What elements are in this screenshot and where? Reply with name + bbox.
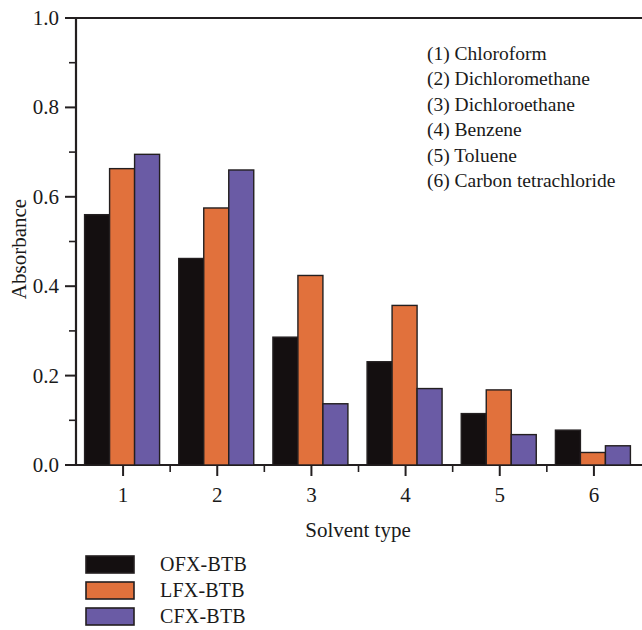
y-axis-ticks — [65, 18, 76, 465]
x-tick-label: 1 — [118, 483, 129, 507]
x-tick-label: 3 — [306, 483, 317, 507]
solvent-key-line: (1) Chloroform — [427, 43, 547, 65]
bar — [85, 215, 110, 465]
x-tick-label: 2 — [212, 483, 223, 507]
y-tick-label: 0.0 — [33, 453, 59, 477]
bar-group — [555, 430, 630, 465]
x-axis-title: Solvent type — [305, 518, 411, 542]
series-legend: OFX-BTBLFX-BTBCFX-BTB — [86, 553, 247, 627]
x-tick-label: 5 — [495, 483, 506, 507]
bar-group — [273, 275, 348, 465]
bar — [580, 452, 605, 465]
legend-label: LFX-BTB — [160, 579, 245, 601]
solvent-key-line: (3) Dichloroethane — [427, 94, 575, 116]
chart-canvas: 0.00.20.40.60.81.0 123456 Solvent type A… — [0, 0, 642, 630]
bar-group — [179, 170, 254, 465]
bar — [461, 414, 486, 465]
bar — [511, 435, 536, 465]
legend-swatch — [86, 582, 134, 599]
x-tick-label: 6 — [589, 483, 600, 507]
solvent-key-line: (6) Carbon tetrachloride — [427, 170, 615, 192]
bar — [323, 404, 348, 465]
solvent-key-line: (2) Dichloromethane — [427, 68, 590, 90]
legend-swatch — [86, 608, 134, 625]
y-tick-label: 0.4 — [33, 274, 60, 298]
bar — [417, 389, 442, 465]
bar — [110, 169, 135, 465]
y-axis-title: Absorbance — [7, 199, 31, 299]
bars-layer — [85, 154, 631, 465]
bar — [273, 337, 298, 465]
bar — [605, 446, 630, 465]
absorbance-bar-chart-figure: 0.00.20.40.60.81.0 123456 Solvent type A… — [0, 0, 642, 630]
y-tick-label: 0.8 — [33, 95, 59, 119]
y-tick-label: 0.6 — [33, 185, 59, 209]
y-axis-tick-labels: 0.00.20.40.60.81.0 — [33, 6, 60, 477]
bar — [179, 258, 204, 465]
y-tick-label: 1.0 — [33, 6, 59, 30]
bar — [204, 208, 229, 465]
bar-group — [367, 305, 442, 465]
bar — [367, 362, 392, 465]
x-axis-ticks — [123, 465, 594, 476]
solvent-key-line: (5) Toluene — [427, 145, 517, 167]
x-axis-tick-labels: 123456 — [118, 483, 599, 507]
legend-label: CFX-BTB — [160, 605, 246, 627]
bar — [229, 170, 254, 465]
bar — [298, 275, 323, 465]
bar-group — [461, 390, 536, 465]
y-tick-label: 0.2 — [33, 364, 59, 388]
solvent-key-annotations: (1) Chloroform(2) Dichloromethane(3) Dic… — [427, 43, 615, 192]
legend-label: OFX-BTB — [160, 553, 247, 575]
solvent-key-line: (4) Benzene — [427, 119, 522, 141]
x-tick-label: 4 — [400, 483, 411, 507]
bar — [135, 154, 160, 465]
bar-group — [85, 154, 160, 465]
bar — [555, 430, 580, 465]
bar — [486, 390, 511, 465]
legend-swatch — [86, 556, 134, 573]
bar — [392, 305, 417, 465]
